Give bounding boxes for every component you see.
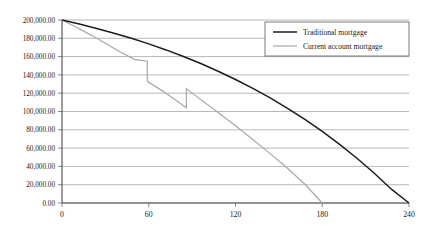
- legend-label-traditional-mortgage: Traditional mortgage: [303, 28, 368, 37]
- y-tick-label: 100,000.00: [23, 108, 56, 116]
- y-tick-label: 0.00: [42, 200, 55, 208]
- x-tick-label: 180: [316, 210, 328, 219]
- y-tick-label: 40,000.00: [26, 163, 55, 171]
- x-tick-label: 240: [403, 210, 415, 219]
- y-tick-label: 180,000.00: [23, 35, 56, 43]
- legend-label-current-account-mortgage: Current account mortgage: [303, 42, 383, 51]
- y-tick-label: 140,000.00: [23, 72, 56, 80]
- legend: Traditional mortgage Current account mor…: [265, 22, 409, 56]
- y-tick-label: 120,000.00: [23, 90, 56, 98]
- x-tick-label: 0: [60, 210, 64, 219]
- y-tick-label: 160,000.00: [23, 53, 56, 61]
- y-tick-label: 80,000.00: [26, 126, 55, 134]
- y-tick-label: 20,000.00: [26, 181, 55, 189]
- x-tick-label: 120: [230, 210, 242, 219]
- x-tick-label: 60: [145, 210, 153, 219]
- y-tick-label: 60,000.00: [26, 145, 55, 153]
- chart-svg: 0.0020,000.0040,000.0060,000.0080,000.00…: [0, 0, 430, 230]
- mortgage-balance-chart: 0.0020,000.0040,000.0060,000.0080,000.00…: [0, 0, 430, 230]
- y-tick-label: 200,000.00: [23, 17, 56, 25]
